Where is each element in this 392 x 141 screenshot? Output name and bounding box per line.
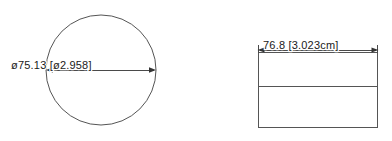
diameter-arrow-right-icon [149, 67, 156, 73]
front-view-circle: ø75.13 [ø2.958] [11, 15, 156, 125]
diameter-dimension-label: ø75.13 [ø2.958] [11, 59, 92, 71]
side-view-rectangle: 76.8 [3.023cm] [258, 39, 379, 128]
width-dimension-label: 76.8 [3.023cm] [263, 39, 339, 51]
technical-drawing-canvas: ø75.13 [ø2.958] 76.8 [3.023cm] [0, 0, 392, 141]
rectangle-outline [259, 53, 378, 128]
drawing-viewport: ø75.13 [ø2.958] 76.8 [3.023cm] [0, 0, 392, 141]
